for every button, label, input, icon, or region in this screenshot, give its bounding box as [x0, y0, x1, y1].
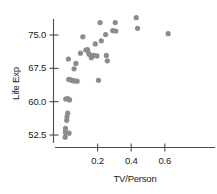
- data-point: [96, 78, 101, 83]
- data-point-group: [63, 15, 171, 140]
- data-point: [66, 131, 71, 136]
- data-point: [113, 20, 118, 25]
- x-tick-label: 0.6: [145, 155, 185, 166]
- data-point: [166, 31, 171, 36]
- scatter-plot-figure: 52.560.067.575.0 0.20.40.6 TV/Person Lif…: [0, 0, 217, 194]
- data-point: [105, 58, 110, 63]
- data-point: [63, 126, 68, 131]
- data-point: [135, 26, 140, 31]
- data-point: [113, 28, 118, 33]
- data-point: [73, 61, 78, 66]
- data-point: [99, 38, 104, 43]
- data-point: [67, 97, 72, 102]
- data-point: [93, 41, 98, 46]
- data-point: [75, 79, 80, 84]
- data-point: [104, 53, 109, 58]
- data-point: [66, 56, 71, 61]
- y-tick-label: 75.0: [12, 29, 46, 40]
- data-point: [78, 51, 83, 56]
- data-point: [94, 53, 99, 58]
- data-point: [80, 34, 85, 39]
- data-point: [134, 15, 139, 20]
- data-point: [103, 32, 108, 37]
- x-axis-title: TV/Person: [60, 173, 210, 184]
- data-point: [71, 66, 76, 71]
- y-axis-title: Life Exp: [10, 54, 21, 114]
- data-point: [65, 111, 70, 116]
- data-point: [98, 20, 103, 25]
- y-tick-label: 52.5: [12, 129, 46, 140]
- data-point: [63, 135, 68, 140]
